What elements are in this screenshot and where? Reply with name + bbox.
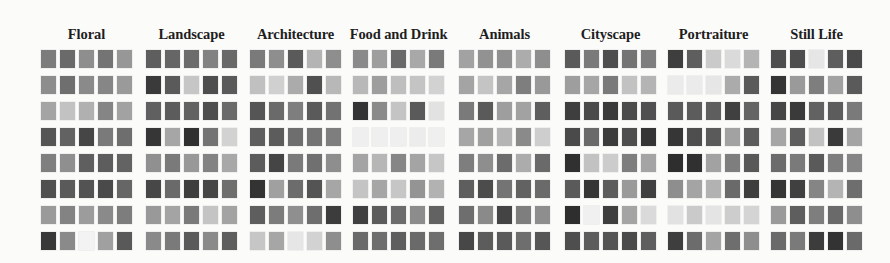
color-swatch: [429, 102, 444, 120]
color-swatch: [603, 232, 618, 250]
color-swatch: [622, 232, 637, 250]
color-swatch: [535, 154, 550, 172]
color-swatch: [269, 128, 284, 146]
color-swatch: [847, 102, 862, 120]
color-swatch: [725, 206, 740, 224]
color-swatch: [478, 180, 493, 198]
color-swatch: [459, 102, 474, 120]
color-swatch: [771, 232, 786, 250]
color-swatch: [706, 102, 721, 120]
color-swatch: [98, 128, 113, 146]
color-swatch: [250, 128, 265, 146]
color-swatch: [326, 232, 341, 250]
color-swatch: [687, 206, 702, 224]
color-swatch: [165, 154, 180, 172]
color-swatch: [165, 102, 180, 120]
color-swatch: [744, 76, 759, 94]
color-swatch: [326, 128, 341, 146]
color-swatch: [307, 206, 322, 224]
color-swatch: [809, 128, 824, 146]
color-swatch: [687, 50, 702, 68]
color-swatch: [60, 154, 75, 172]
color-swatch: [516, 232, 531, 250]
color-swatch: [222, 180, 237, 198]
color-swatch: [790, 102, 805, 120]
color-swatch: [288, 128, 303, 146]
color-swatch: [429, 50, 444, 68]
color-swatch: [41, 102, 56, 120]
color-swatch: [372, 50, 387, 68]
color-swatch: [516, 154, 531, 172]
color-swatch: [184, 102, 199, 120]
color-swatch: [478, 154, 493, 172]
color-swatch: [497, 180, 512, 198]
color-swatch: [584, 180, 599, 198]
color-swatch: [687, 180, 702, 198]
color-swatch: [459, 206, 474, 224]
color-swatch: [516, 76, 531, 94]
color-swatch: [687, 128, 702, 146]
color-swatch: [771, 128, 786, 146]
color-swatch: [687, 76, 702, 94]
color-swatch: [353, 50, 368, 68]
panel-title: Portraiture: [662, 26, 765, 43]
color-swatch: [372, 76, 387, 94]
color-swatch: [478, 206, 493, 224]
color-swatch: [535, 102, 550, 120]
color-swatch: [847, 154, 862, 172]
color-swatch: [353, 180, 368, 198]
color-swatch: [744, 102, 759, 120]
panel-title: Animals: [453, 26, 556, 43]
color-swatch: [603, 154, 618, 172]
color-swatch: [222, 232, 237, 250]
color-swatch: [184, 128, 199, 146]
color-swatch: [828, 50, 843, 68]
color-swatch: [146, 180, 161, 198]
color-swatch: [372, 128, 387, 146]
color-swatch: [410, 232, 425, 250]
color-swatch: [326, 206, 341, 224]
panel-portraiture: Portraiture: [662, 0, 765, 263]
color-swatch: [535, 50, 550, 68]
color-swatch: [706, 50, 721, 68]
color-swatch: [847, 76, 862, 94]
color-swatch: [478, 50, 493, 68]
color-swatch: [203, 206, 218, 224]
color-swatch: [641, 102, 656, 120]
color-swatch: [622, 76, 637, 94]
color-swatch: [391, 232, 406, 250]
color-swatch: [117, 102, 132, 120]
color-swatch: [771, 180, 786, 198]
color-swatch: [98, 232, 113, 250]
panel-cityscape: Cityscape: [559, 0, 662, 263]
color-swatch: [622, 128, 637, 146]
color-swatch: [828, 128, 843, 146]
panel-title: Cityscape: [559, 26, 662, 43]
color-swatch: [584, 50, 599, 68]
color-swatch: [809, 206, 824, 224]
color-swatch: [565, 76, 580, 94]
color-swatch: [203, 128, 218, 146]
color-swatch: [146, 232, 161, 250]
color-swatch: [203, 102, 218, 120]
color-swatch: [641, 206, 656, 224]
color-swatch: [429, 180, 444, 198]
color-swatch: [603, 50, 618, 68]
color-swatch: [790, 128, 805, 146]
panel-still-life: Still Life: [765, 0, 868, 263]
color-swatch: [535, 128, 550, 146]
color-swatch: [222, 76, 237, 94]
color-swatch: [307, 50, 322, 68]
panel-animals: Animals: [453, 0, 556, 263]
color-swatch: [459, 50, 474, 68]
color-swatch: [184, 50, 199, 68]
color-swatch: [79, 206, 94, 224]
color-swatch: [326, 154, 341, 172]
color-swatch: [353, 128, 368, 146]
panel-title: Floral: [35, 26, 138, 43]
color-swatch: [250, 102, 265, 120]
color-swatch: [146, 128, 161, 146]
color-swatch: [250, 232, 265, 250]
color-swatch: [184, 154, 199, 172]
color-swatch: [98, 180, 113, 198]
